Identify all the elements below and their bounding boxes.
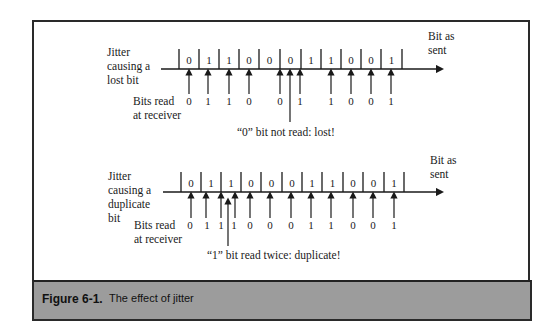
receiver-label-line-2: at receiver — [133, 109, 181, 121]
bits-read: 0 1 1 1 0 0 0 1 1 0 0 1 — [187, 219, 397, 231]
svg-text:0: 0 — [247, 219, 253, 231]
axis-label-line-1: Bit as — [428, 30, 455, 42]
svg-text:1: 1 — [218, 219, 224, 231]
bits-sent: 0 1 1 0 0 0 1 1 0 0 1 — [188, 177, 397, 189]
svg-text:0: 0 — [288, 219, 294, 231]
side-label-line-1: Jitter — [108, 170, 131, 182]
side-label-line-3: duplicate — [108, 198, 150, 211]
svg-text:1: 1 — [391, 177, 397, 189]
svg-text:1: 1 — [208, 177, 214, 189]
svg-text:0: 0 — [246, 54, 252, 66]
svg-text:0: 0 — [277, 95, 283, 107]
svg-text:1: 1 — [328, 219, 334, 231]
svg-text:0: 0 — [246, 95, 252, 107]
receiver-label-line-1: Bits read — [134, 219, 175, 231]
svg-text:1: 1 — [389, 54, 395, 66]
svg-text:1: 1 — [205, 95, 211, 107]
svg-text:0: 0 — [350, 219, 356, 231]
svg-text:1: 1 — [308, 54, 314, 66]
side-label-line-2: causing a — [107, 60, 150, 73]
side-label-line-3: lost bit — [107, 74, 139, 86]
svg-text:1: 1 — [297, 95, 303, 107]
svg-text:0: 0 — [368, 95, 374, 107]
side-label-line-4: bit — [108, 212, 121, 224]
side-label-line-1: Jitter — [107, 46, 130, 58]
svg-text:0: 0 — [267, 219, 273, 231]
svg-text:0: 0 — [371, 177, 377, 189]
svg-text:0: 0 — [289, 177, 295, 189]
svg-text:1: 1 — [388, 95, 394, 107]
svg-text:1: 1 — [328, 95, 334, 107]
svg-text:1: 1 — [330, 177, 336, 189]
lost-bit-diagram: Jitter causing a lost bit Bit as sent 0 … — [107, 30, 455, 138]
lost-bit-annotation: “0” bit not read: lost! — [237, 126, 335, 138]
svg-text:0: 0 — [348, 95, 354, 107]
axis-label-line-1: Bit as — [430, 154, 457, 166]
svg-text:0: 0 — [187, 219, 193, 231]
figure-caption: The effect of jitter — [109, 292, 194, 304]
side-label-line-2: causing a — [108, 184, 151, 197]
svg-text:1: 1 — [231, 219, 237, 231]
jitter-diagram: Jitter causing a lost bit Bit as sent 0 … — [0, 0, 558, 326]
svg-text:1: 1 — [206, 54, 212, 66]
svg-text:0: 0 — [248, 177, 254, 189]
bits-sent: 0 1 1 0 0 0 1 1 0 0 1 — [186, 54, 394, 66]
receiver-label-line-1: Bits read — [133, 95, 174, 107]
duplicate-bit-annotation: “1” bit read twice: duplicate! — [207, 249, 340, 262]
axis-label-line-2: sent — [430, 168, 449, 180]
svg-text:0: 0 — [186, 95, 192, 107]
svg-text:1: 1 — [228, 177, 234, 189]
svg-text:1: 1 — [308, 219, 314, 231]
duplicate-bit-diagram: Jitter causing a duplicate bit Bit as se… — [108, 154, 457, 262]
receiver-label-line-2: at receiver — [134, 233, 182, 245]
svg-text:0: 0 — [350, 177, 356, 189]
svg-text:1: 1 — [328, 54, 334, 66]
svg-text:0: 0 — [348, 54, 354, 66]
svg-text:0: 0 — [370, 219, 376, 231]
svg-text:0: 0 — [288, 54, 294, 66]
svg-text:1: 1 — [226, 95, 232, 107]
svg-text:0: 0 — [368, 54, 374, 66]
svg-text:1: 1 — [309, 177, 315, 189]
figure-caption-bar: Figure 6-1. The effect of jitter — [32, 280, 532, 321]
svg-text:0: 0 — [188, 177, 194, 189]
sample-arrows — [191, 195, 394, 218]
figure-number: Figure 6-1. — [42, 292, 103, 306]
svg-text:1: 1 — [391, 219, 397, 231]
svg-text:0: 0 — [186, 54, 192, 66]
svg-text:0: 0 — [267, 54, 273, 66]
svg-text:0: 0 — [269, 177, 275, 189]
svg-text:1: 1 — [204, 219, 210, 231]
axis-label-line-2: sent — [428, 44, 447, 56]
svg-text:1: 1 — [226, 54, 232, 66]
